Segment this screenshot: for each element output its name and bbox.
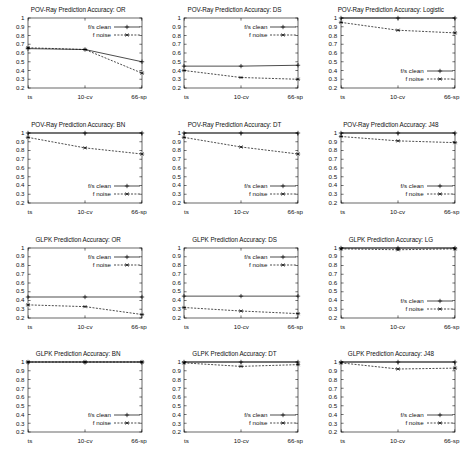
y-axis-tick-label: 0.6	[172, 279, 181, 285]
y-axis-tick-label: 0.7	[16, 385, 25, 391]
legend-label: f noise	[93, 31, 114, 39]
legend-key-swatch	[427, 419, 453, 427]
y-axis-tick-label: 0.6	[329, 279, 338, 285]
chart-panel: POV-Ray Prediction Accuracy: DS0.20.30.4…	[156, 0, 312, 115]
y-axis-tick-label: 0.8	[172, 377, 181, 383]
legend-label: f/s clean	[88, 182, 114, 190]
legend-key-swatch	[427, 305, 453, 313]
x-axis-labels: ts10-cv66-sp	[184, 322, 298, 334]
y-axis-tick-label: 0.9	[329, 138, 338, 144]
y-axis-tick-label: 0.4	[172, 412, 181, 418]
chart-panel: POV-Ray Prediction Accuracy: OR0.20.30.4…	[0, 0, 156, 115]
y-axis-tick-label: 0.4	[16, 297, 25, 303]
x-axis-labels: ts10-cv66-sp	[184, 92, 298, 104]
x-axis-tick-label: ts	[340, 324, 345, 330]
y-axis-tick-label: 0.6	[16, 165, 25, 171]
chart-panel: GLPK Prediction Accuracy: BN0.20.30.40.5…	[0, 344, 156, 459]
legend-entry: f noise	[381, 75, 453, 83]
y-axis-tick-label: 0.4	[329, 67, 338, 73]
y-axis-tick-label: 0.9	[16, 368, 25, 374]
chart-panel: POV-Ray Prediction Accuracy: J480.20.30.…	[313, 115, 469, 230]
chart-legend: f/s clean f noise	[381, 411, 453, 427]
y-axis-tick-label: 0.7	[329, 41, 338, 47]
chart-legend: f/s clean f noise	[224, 182, 296, 198]
legend-key-swatch	[270, 411, 296, 419]
y-axis-tick-label: 1	[177, 244, 180, 250]
y-axis-tick-label: 0.9	[16, 138, 25, 144]
y-axis-tick-label: 0.5	[172, 59, 181, 65]
legend-label: f noise	[93, 190, 114, 198]
y-axis-tick-label: 0.2	[329, 85, 338, 91]
y-axis-tick-label: 0.2	[16, 314, 25, 320]
y-axis-tick-label: 0.4	[329, 297, 338, 303]
legend-key-swatch	[427, 182, 453, 190]
legend-key-swatch	[114, 419, 140, 427]
x-axis-labels: ts10-cv66-sp	[341, 207, 455, 219]
x-axis-tick-label: ts	[28, 209, 33, 215]
legend-key-swatch	[114, 190, 140, 198]
y-axis-tick-label: 0.5	[16, 403, 25, 409]
y-axis-tick-label: 0.6	[329, 50, 338, 56]
legend-entry: f noise	[68, 31, 140, 39]
chart-legend: f/s clean f noise	[381, 67, 453, 83]
y-axis-tick-label: 0.6	[16, 279, 25, 285]
legend-label: f/s clean	[88, 411, 114, 419]
y-axis-tick-label: 0.8	[329, 32, 338, 38]
y-axis-tick-label: 0.9	[172, 253, 181, 259]
y-axis-tick-label: 1	[21, 15, 24, 21]
chart-panel: GLPK Prediction Accuracy: OR0.20.30.40.5…	[0, 230, 156, 345]
y-axis-tick-label: 0.8	[329, 377, 338, 383]
y-axis-tick-label: 0.3	[329, 76, 338, 82]
x-axis-tick-label: 66-sp	[131, 94, 146, 100]
y-axis-tick-label: 0.5	[329, 59, 338, 65]
chart-panel: GLPK Prediction Accuracy: J480.20.30.40.…	[313, 344, 469, 459]
legend-key-swatch	[427, 297, 453, 305]
y-axis-tick-label: 0.5	[16, 173, 25, 179]
y-axis-tick-label: 0.9	[329, 24, 338, 30]
legend-label: f/s clean	[401, 182, 427, 190]
y-axis-tick-label: 0.9	[16, 24, 25, 30]
y-axis-labels: 0.20.30.40.50.60.70.80.91	[313, 133, 339, 203]
legend-label: f/s clean	[401, 411, 427, 419]
legend-key-swatch	[427, 67, 453, 75]
x-axis-tick-label: 66-sp	[288, 324, 303, 330]
legend-entry: f noise	[224, 261, 296, 269]
legend-entry: f/s clean	[224, 23, 296, 31]
y-axis-tick-label: 0.5	[172, 403, 181, 409]
y-axis-tick-label: 0.4	[16, 412, 25, 418]
y-axis-tick-label: 0.5	[16, 288, 25, 294]
y-axis-tick-label: 0.2	[16, 200, 25, 206]
y-axis-tick-label: 0.3	[172, 76, 181, 82]
y-axis-tick-label: 0.4	[16, 182, 25, 188]
x-axis-tick-label: ts	[28, 324, 33, 330]
y-axis-labels: 0.20.30.40.50.60.70.80.91	[156, 248, 182, 318]
x-axis-tick-label: ts	[28, 438, 33, 444]
y-axis-tick-label: 1	[21, 359, 24, 365]
chart-legend: f/s clean f noise	[68, 411, 140, 427]
y-axis-tick-label: 0.9	[172, 368, 181, 374]
y-axis-tick-label: 0.7	[16, 271, 25, 277]
legend-label: f/s clean	[244, 411, 270, 419]
y-axis-tick-label: 0.6	[329, 394, 338, 400]
y-axis-tick-label: 0.8	[16, 262, 25, 268]
x-axis-tick-label: ts	[340, 438, 345, 444]
y-axis-tick-label: 0.9	[172, 138, 181, 144]
x-axis-tick-label: 66-sp	[444, 209, 459, 215]
chart-legend: f/s clean f noise	[68, 23, 140, 39]
y-axis-tick-label: 0.3	[329, 420, 338, 426]
y-axis-tick-label: 0.9	[172, 24, 181, 30]
legend-entry: f noise	[381, 190, 453, 198]
x-axis-labels: ts10-cv66-sp	[341, 436, 455, 448]
legend-key-swatch	[270, 253, 296, 261]
legend-key-swatch	[114, 253, 140, 261]
y-axis-tick-label: 1	[334, 359, 337, 365]
y-axis-tick-label: 0.7	[16, 41, 25, 47]
y-axis-tick-label: 0.5	[329, 288, 338, 294]
legend-label: f noise	[249, 190, 270, 198]
chart-title: GLPK Prediction Accuracy: BN	[0, 350, 156, 357]
x-axis-tick-label: 66-sp	[444, 94, 459, 100]
y-axis-tick-label: 0.8	[329, 147, 338, 153]
x-axis-labels: ts10-cv66-sp	[184, 207, 298, 219]
x-axis-tick-label: ts	[340, 209, 345, 215]
legend-label: f noise	[249, 31, 270, 39]
